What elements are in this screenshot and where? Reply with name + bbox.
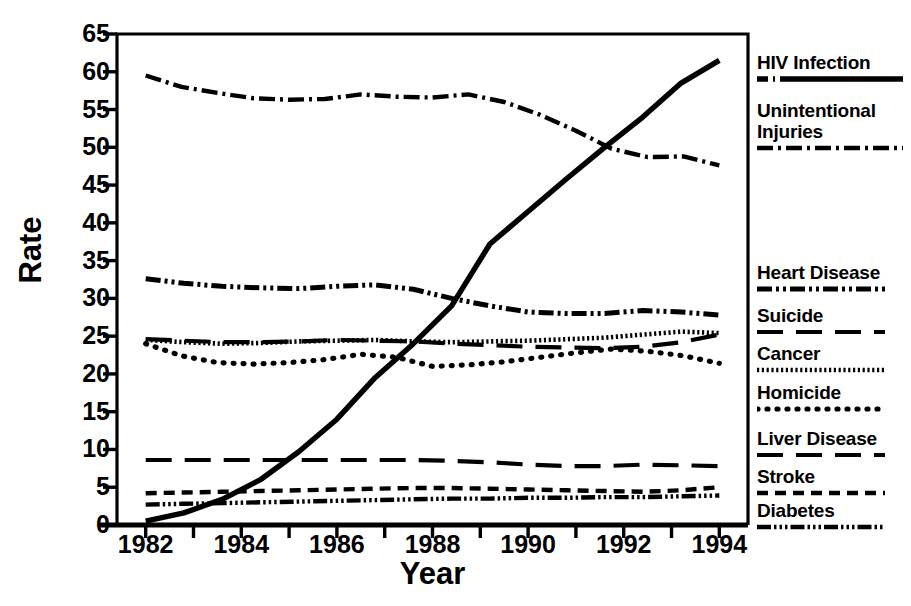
legend-entry[interactable]: Liver Disease: [757, 428, 911, 459]
legend-line-swatch: [757, 450, 903, 459]
series-line: [146, 76, 720, 166]
legend-label: Diabetes: [757, 500, 911, 521]
legend-label: HIV Infection: [757, 52, 911, 73]
legend-entry[interactable]: Diabetes: [757, 500, 911, 531]
legend-entry[interactable]: Cancer: [757, 343, 911, 374]
legend-line-swatch: [757, 404, 903, 413]
legend-label: Cancer: [757, 343, 911, 364]
legend-entry[interactable]: Homicide: [757, 382, 911, 413]
legend-line-swatch: [757, 327, 903, 336]
legend-line-swatch: [757, 284, 903, 293]
legend-label: Heart Disease: [757, 262, 911, 283]
legend-entry[interactable]: Suicide: [757, 305, 911, 336]
chart-figure: Rate Year 65605550454035302520151050 198…: [0, 0, 911, 606]
legend-line-swatch: [757, 365, 903, 374]
legend-label: Stroke: [757, 466, 911, 487]
legend-entry[interactable]: Unintentional Injuries: [757, 100, 911, 152]
legend-line-swatch: [757, 143, 903, 152]
legend-line-swatch: [757, 74, 903, 83]
legend-label: Homicide: [757, 382, 911, 403]
legend-label: Suicide: [757, 305, 911, 326]
legend-line-swatch: [757, 522, 903, 531]
series-line: [146, 335, 720, 349]
series-line: [146, 460, 720, 466]
legend-entry[interactable]: Stroke: [757, 466, 911, 497]
legend-label: Liver Disease: [757, 428, 911, 449]
chart-legend: HIV InfectionUnintentional InjuriesHeart…: [757, 0, 911, 606]
legend-line-swatch: [757, 488, 903, 497]
series-line: [146, 279, 720, 315]
legend-entry[interactable]: Heart Disease: [757, 262, 911, 293]
legend-entry[interactable]: HIV Infection: [757, 52, 911, 83]
series-line: [146, 60, 720, 521]
legend-label: Unintentional Injuries: [757, 100, 911, 142]
